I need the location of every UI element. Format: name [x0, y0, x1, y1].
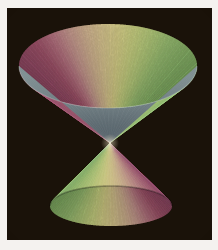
page-margin-right: [212, 0, 218, 250]
figure-root: [0, 0, 218, 250]
page-margin-left: [0, 0, 7, 250]
page-margin-top: [0, 0, 218, 8]
page-margin-bottom: [0, 240, 218, 250]
plot-frame: [7, 8, 212, 240]
double-cone-surface-plot: [7, 8, 212, 240]
